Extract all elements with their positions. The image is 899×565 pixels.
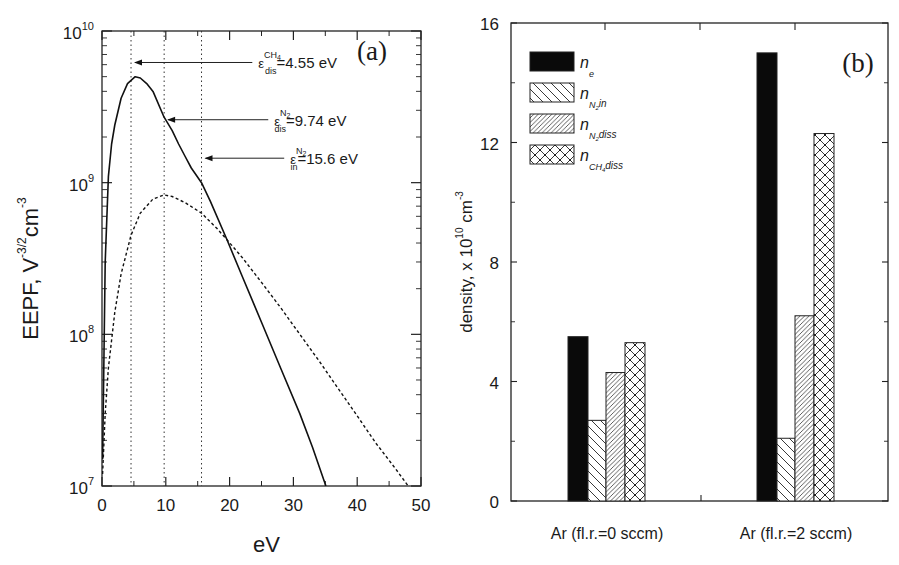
- y-tick-label: 16: [480, 15, 499, 34]
- legend-label: ne: [580, 54, 594, 79]
- legend-label: nCH4diss: [580, 147, 623, 173]
- bar-diag-back: [588, 420, 606, 501]
- y-tick-label: 1010: [63, 20, 94, 43]
- y-tick-label: 109: [69, 172, 94, 195]
- bar-crosshatch: [625, 343, 645, 501]
- x-tick-label: 50: [412, 496, 431, 515]
- bar-diag-back: [777, 438, 795, 501]
- bar-diag-fwd: [606, 373, 625, 501]
- arrow-icon: [167, 117, 175, 123]
- x-tick-label: 0: [97, 496, 106, 515]
- legend-swatch-diag-fwd: [530, 114, 574, 133]
- x-tick-label: 30: [284, 496, 303, 515]
- eepf-dashed-curve: [103, 195, 409, 486]
- bar-crosshatch: [814, 134, 834, 501]
- threshold-label: εN2dis=9.74 eV: [274, 108, 346, 134]
- y-tick-label: 107: [69, 475, 94, 498]
- y-tick-label: 0: [490, 493, 499, 512]
- x-tick-label: 20: [220, 496, 239, 515]
- legend: nenN2innN2dissnCH4diss: [530, 52, 623, 173]
- plot-frame: [102, 31, 421, 486]
- legend-swatch-crosshatch: [530, 145, 574, 164]
- legend-swatch-solid: [530, 52, 574, 71]
- x-axis-label: eV: [253, 532, 280, 557]
- bar-diag-fwd: [795, 316, 814, 501]
- y-tick-label: 4: [490, 374, 499, 393]
- eepf-chart-panel: 010203040501071081091010εCH4dis=4.55 eVε…: [15, 20, 430, 557]
- legend-swatch-diag-back: [530, 83, 574, 102]
- y-axis-label: density, x 1010 cm-3: [454, 191, 476, 333]
- bar-solid: [568, 337, 588, 501]
- arrow-icon: [205, 155, 213, 161]
- x-category-label: Ar (fl.r.=0 sccm): [551, 525, 663, 542]
- bar-solid: [757, 53, 777, 501]
- density-bar-chart-panel: 0481216Ar (fl.r.=0 sccm)Ar (fl.r.=2 sccm…: [454, 15, 888, 542]
- legend-label: nN2in: [580, 85, 607, 111]
- y-tick-label: 108: [69, 323, 94, 346]
- y-axis-label: EEPF, V-3/2cm-3: [15, 197, 43, 340]
- x-tick-label: 40: [348, 496, 367, 515]
- y-tick-label: 8: [490, 254, 499, 273]
- legend-label: nN2diss: [580, 116, 617, 142]
- panel-label: (b): [842, 48, 873, 78]
- figure: 010203040501071081091010εCH4dis=4.55 eVε…: [0, 0, 899, 565]
- threshold-label: εCH4dis=4.55 eV: [258, 50, 337, 76]
- panel-label: (a): [357, 36, 387, 66]
- figure-canvas: 010203040501071081091010εCH4dis=4.55 eVε…: [0, 0, 899, 565]
- y-tick-label: 12: [480, 135, 499, 154]
- x-tick-label: 10: [156, 496, 175, 515]
- eepf-solid-curve: [103, 77, 326, 486]
- arrow-icon: [134, 59, 142, 65]
- threshold-label: εN2in=15.6 eV: [290, 146, 358, 172]
- x-category-label: Ar (fl.r.=2 sccm): [740, 525, 852, 542]
